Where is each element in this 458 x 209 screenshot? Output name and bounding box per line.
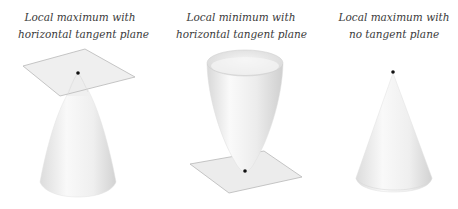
surface-figure bbox=[0, 0, 458, 209]
critical-point-min bbox=[243, 169, 247, 173]
local-min-surface bbox=[207, 50, 283, 172]
critical-point-max bbox=[76, 71, 80, 75]
cone-surface bbox=[356, 73, 432, 192]
critical-point-cone-apex bbox=[391, 70, 395, 74]
